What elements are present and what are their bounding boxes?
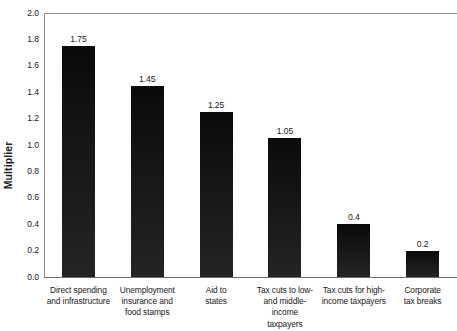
x-axis-category-label-line: states [182,296,250,307]
bar-value-label: 1.75 [48,34,108,44]
y-axis-tick-label: 0.4 [0,220,39,229]
x-axis-baseline [44,277,457,278]
x-axis-category-label: Corporatetax breaks [389,285,457,307]
y-axis-tick-label: 0.0 [0,273,39,282]
bar-chart-figure: Multiplier 2.01.81.61.41.21.00.80.60.40.… [0,0,457,331]
x-axis-category-label-line: income taxpayers [320,296,388,307]
y-axis-tick-label: 2.0 [0,9,39,18]
x-axis-category-label: Tax cuts to low-and middle-incometaxpaye… [251,285,319,330]
bar [62,46,95,277]
x-axis-category-label: Tax cuts for high-income taxpayers [320,285,388,307]
y-axis-tick-label: 0.8 [0,167,39,176]
bar-value-label: 1.05 [255,126,315,136]
x-axis-category-label: Aid tostates [182,285,250,307]
y-axis-tick-label: 0.6 [0,193,39,202]
x-axis-category-label-line: Aid to [182,285,250,296]
x-axis-category-label: Direct spendingand infrastructure [44,285,112,307]
bar-value-label: 1.45 [117,74,177,84]
x-axis-category-label-line: tax breaks [389,296,457,307]
x-axis-category-label-line: taxpayers [251,319,319,330]
bar [406,251,439,277]
y-axis-tick-label: 1.4 [0,88,39,97]
x-axis-category-label-line: food stamps [113,307,181,318]
y-axis-tick-label: 1.2 [0,114,39,123]
x-axis-category-label-line: Unemployment [113,285,181,296]
x-axis-category-label: Unemploymentinsurance andfood stamps [113,285,181,319]
x-axis-category-label-line: Direct spending [44,285,112,296]
bar-value-label: 0.2 [393,239,453,249]
bar-value-label: 1.25 [186,100,246,110]
y-axis-tick-labels: 2.01.81.61.41.21.00.80.60.40.20.0 [0,0,41,331]
y-axis-tick-label: 1.0 [0,141,39,150]
y-axis-tick-label: 1.6 [0,61,39,70]
x-axis-category-label-line: insurance and [113,296,181,307]
bar-value-label: 0.4 [324,212,384,222]
plot-area [44,13,457,277]
y-axis-tick-label: 0.2 [0,246,39,255]
x-axis-category-label-line: and middle-income [251,296,319,318]
y-axis-tick-label: 1.8 [0,35,39,44]
bar [268,138,301,277]
x-axis-category-label-line: Corporate [389,285,457,296]
bar [337,224,370,277]
x-axis-category-label-line: Tax cuts for high- [320,285,388,296]
bar [131,86,164,277]
x-axis-category-label-line: Tax cuts to low- [251,285,319,296]
x-axis-category-label-line: and infrastructure [44,296,112,307]
bar [200,112,233,277]
